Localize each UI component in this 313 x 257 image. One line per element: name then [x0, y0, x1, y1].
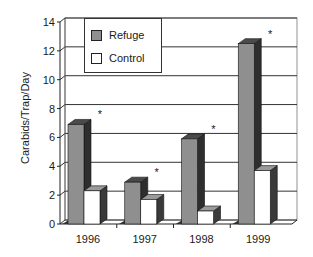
refuge-swatch-icon — [91, 30, 102, 41]
y-tick-label: 6 — [49, 131, 55, 143]
bar-control-1998 — [198, 206, 221, 224]
legend-label-control: Control — [109, 52, 144, 64]
x-tick-label: 1997 — [133, 233, 157, 245]
significance-asterisk: * — [211, 123, 216, 135]
y-tick-label: 4 — [49, 160, 55, 172]
bar-control-1997 — [141, 194, 164, 224]
y-tick-label: 12 — [43, 45, 55, 57]
significance-asterisk: * — [98, 108, 103, 120]
x-tick-label: 1998 — [189, 233, 213, 245]
control-swatch-icon — [91, 53, 102, 64]
y-tick-label: 8 — [49, 103, 55, 115]
legend: Refuge Control — [84, 18, 162, 73]
legend-label-refuge: Refuge — [109, 29, 144, 41]
significance-asterisk: * — [155, 166, 160, 178]
y-tick-label: 0 — [49, 218, 55, 230]
y-tick-label: 14 — [43, 16, 55, 28]
bar-control-1999 — [254, 166, 277, 224]
y-tick-label: 10 — [43, 74, 55, 86]
y-axis-title: Carabids/Trap/Day — [19, 72, 31, 164]
y-tick-label: 2 — [49, 189, 55, 201]
y-tick-labels: 02468101214 — [43, 16, 60, 230]
x-tick-label: 1996 — [76, 233, 100, 245]
legend-item-refuge: Refuge — [91, 29, 144, 41]
x-tick-label: 1999 — [246, 233, 270, 245]
significance-asterisk: * — [268, 28, 273, 40]
legend-item-control: Control — [91, 52, 144, 64]
bar-control-1996 — [84, 186, 107, 224]
x-tick-labels: 1996199719981999 — [76, 224, 271, 245]
